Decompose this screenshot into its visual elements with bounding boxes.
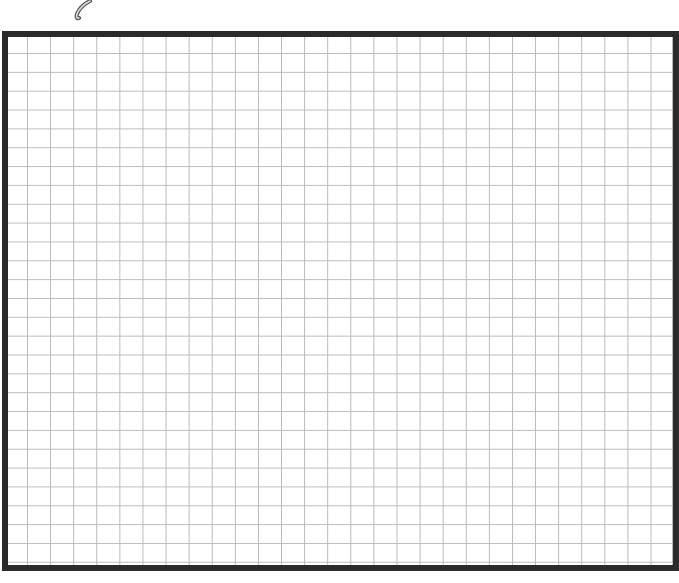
- grid-right-edge-line: [672, 37, 673, 565]
- hook-stroke-icon: [70, 0, 94, 22]
- grid-paper: [2, 31, 679, 571]
